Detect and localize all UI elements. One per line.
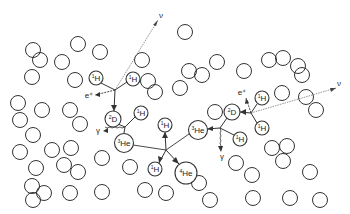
nucleus-label-h1e: 1H [151,165,160,174]
hydrogen-particle [63,103,78,118]
gamma-label-1: γ [96,127,100,135]
bond-he3a-v3 [133,145,166,150]
hydrogen-particle [173,81,188,96]
hydrogen-particle [309,103,324,118]
nucleus-label-h1b: 1H [129,75,138,84]
hydrogen-particle [299,90,314,105]
nucleus-label-h1h: 1H [258,124,267,133]
hydrogen-particle [25,179,40,194]
hydrogen-particle [33,53,48,68]
hydrogen-particle [73,117,88,132]
hydrogen-particle [95,185,110,200]
hydrogen-particle [262,53,277,68]
hydrogen-particle [45,143,60,158]
bond-he3a [124,127,125,133]
hydrogen-particle [13,145,28,160]
hydrogen-particle [11,96,26,111]
hydrogen-particle [237,64,252,79]
hydrogen-particle [148,85,163,100]
hydrogen-particle [141,74,156,89]
hydrogen-particle [195,68,210,83]
hydrogen-particle [29,161,44,176]
hydrogen-particle [313,193,328,208]
gamma-path-2 [220,128,221,146]
nucleus-label-he3b: 3He [191,126,204,135]
bond-h1c [125,117,135,127]
hydrogen-particle [159,186,174,201]
hydrogen-particle [295,68,310,83]
hydrogen-particle [178,25,193,40]
hydrogen-particle [71,37,86,52]
hydrogen-particle [208,105,223,120]
neutrino-arrowhead-1 [153,20,158,26]
hydrogen-particle [280,139,295,154]
hydrogen-particle [276,51,291,66]
hydrogen-particle [283,191,298,206]
hydrogen-particle [95,151,110,166]
hydrogen-particle [138,183,153,198]
hydrogen-particle [26,193,41,208]
nucleus-label-h1g: 1H [258,94,267,103]
nucleus-label-d1: 2D [109,115,118,124]
nucleus-label-h1f: 1H [236,135,245,144]
bond-h1b [115,82,127,90]
hydrogen-particle [63,186,78,201]
hydrogen-particle [210,55,225,70]
hydrogen-particle [245,168,260,183]
hydrogen-particle [276,154,291,169]
hydrogen-particle [37,186,52,201]
bond-h1h [251,113,257,123]
hydrogen-particle [203,193,218,208]
hydrogen-particle [93,45,108,60]
hydrogen-particle [55,55,70,70]
fusion-diagram: ν e⁺ γ ν e⁺ γ 1H1H2D1H3He1H1H4He3He1H2D1… [0,0,350,214]
h1d-arrowhead [162,132,168,138]
hydrogen-particle [275,86,290,101]
d2-arrowhead [240,109,246,115]
neutrino-label-1: ν [159,12,163,20]
hydrogen-particles [11,25,328,208]
hydrogen-particle [57,158,72,173]
hydrogen-particle [68,73,83,88]
hydrogen-particle [229,156,244,171]
nucleus-label-he3a: 3He [117,139,130,148]
bond-d2-v4 [220,118,227,128]
bond-he3b-v3 [166,134,189,150]
nucleus-label-h1a: 1H [92,74,101,83]
diagram-canvas [0,0,350,214]
bond-h1f [220,128,234,135]
hydrogen-particle [123,160,138,175]
neutrino-arrowhead-2 [330,88,336,92]
hydrogen-particle [71,165,86,180]
hydrogen-particle [291,59,306,74]
deuteron-arrowhead-1 [111,105,117,111]
bond-h1a [101,83,115,90]
nucleus-label-h1d: 1H [161,121,170,130]
positron-label-1: e⁺ [85,92,93,100]
hydrogen-particle [25,70,40,85]
neutrino-label-2: ν [337,80,341,88]
positron-arrowhead-2 [245,98,249,104]
hydrogen-particle [13,113,28,128]
gamma-label-2: γ [220,153,224,161]
positron-label-2: e⁺ [238,89,246,97]
hydrogen-particle [303,165,318,180]
hydrogen-particle [35,103,50,118]
hydrogen-particle [26,128,41,143]
gamma-arrowhead-1 [103,128,108,133]
nucleus-label-he4: 4He [179,169,192,178]
hydrogen-particle [265,141,280,156]
nucleus-label-h1c: 1H [137,109,146,118]
hydrogen-particle [64,141,79,156]
nucleus-label-d2: 2D [228,108,237,117]
hydrogen-particle [26,43,41,58]
hydrogen-particle [246,191,261,206]
